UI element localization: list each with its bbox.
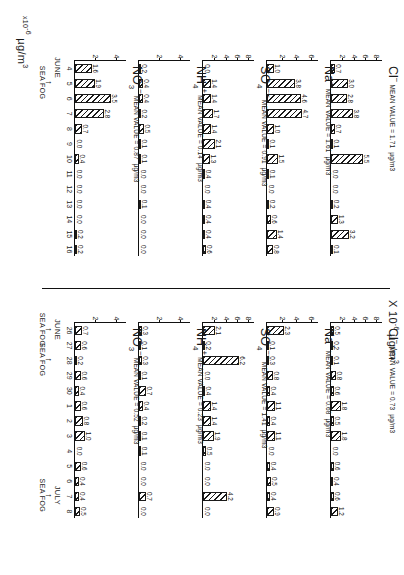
bar: 0.7	[75, 124, 82, 133]
bar-value-label: 0.8	[273, 245, 280, 254]
panel-title-nh4-period1: NH4+MEAN VALUE = 0.14 µg/m3	[191, 66, 209, 182]
bar-value-label: 0.2	[77, 245, 84, 254]
bar-value-label: 0.4	[333, 477, 340, 486]
month-label-july: JULY	[53, 486, 62, 505]
aerosol-ion-bar-chart-figure: Cl−MEAN VALUE = 1.71 µg/m324680.73.02.83…	[0, 0, 404, 575]
bar: 0.4	[75, 386, 79, 395]
bar: 0.6	[75, 401, 81, 410]
sea-fog-label: SEA FOG	[39, 66, 46, 100]
bar-value-label: 0.1	[333, 245, 340, 254]
bar-value-label: 0.4	[79, 386, 86, 395]
bar-value-label: 3.8	[295, 79, 302, 88]
bar: 0.5	[203, 446, 206, 455]
y-tick-mark	[214, 320, 215, 323]
plot-area-no3-period2: 240.7260.6270.2280.6290.4300.610.821.030…	[75, 323, 126, 518]
bar-value-label: 0.1	[141, 200, 148, 209]
bar-value-label: 4.7	[302, 109, 309, 118]
bar: 0.4	[75, 477, 79, 486]
bar-value-label: 1.4	[211, 417, 218, 426]
bar-value-label: 0.4	[79, 155, 86, 164]
x-tick-day-label: 8	[66, 127, 75, 131]
bar-value-label: 0.0	[76, 185, 83, 194]
sea-fog-label: SEA FOG	[39, 479, 46, 513]
bar: 1.4	[267, 230, 277, 239]
bar: 0.8	[75, 416, 83, 425]
bar-value-label: 0.0	[204, 185, 211, 194]
bar-value-label: 1.3	[211, 155, 218, 164]
sea-fog-arrow: ↑	[46, 493, 52, 498]
y-tick-mark	[159, 320, 160, 323]
bar-value-label: 2.3	[284, 326, 291, 335]
bar-value-label: 1.7	[213, 109, 220, 118]
bar-value-label: 0.6	[81, 402, 88, 411]
x-tick-day-label: 8	[66, 510, 75, 514]
bar-value-label: 5.5	[363, 155, 370, 164]
bar-value-label: 0.0	[140, 462, 147, 471]
bar: 0.6	[75, 341, 81, 350]
bar-value-label: 0.4	[79, 492, 86, 501]
bar-value-label: 0.5	[144, 124, 151, 133]
bar-value-label: 6.2	[239, 356, 246, 365]
y-tick-mark	[248, 58, 249, 61]
bar-value-label: 0.4	[205, 200, 212, 209]
bar: 0.7	[75, 326, 82, 335]
plot-area-cl-period1: 24680.73.02.83.80.70.15.50.00.00.21.33.2…	[331, 61, 382, 256]
panel-title-so4-period1: SO4−−MEAN VALUE = 0.91 µg/m3	[255, 66, 273, 187]
x-tick-day-label: 15	[66, 230, 75, 238]
bar-value-label: 0.2	[77, 356, 84, 365]
bar-value-label: 3.8	[353, 109, 360, 118]
bar: 0.6	[75, 462, 81, 471]
bar-value-label: 2.1	[215, 326, 222, 335]
plot-area-so4-period2: 24682.10.26.20.00.41.41.41.90.50.00.04.2…	[203, 323, 254, 518]
bar-value-label: 0.4	[79, 477, 86, 486]
bar-value-label: 1.4	[211, 94, 218, 103]
x-tick-day-label: 14	[66, 215, 75, 223]
bar-value-label: 0.0	[76, 215, 83, 224]
bar-value-label: 1.8	[341, 402, 348, 411]
y-tick-mark	[180, 320, 181, 323]
y-tick-mark	[342, 58, 343, 61]
bar: 0.6	[203, 245, 206, 254]
y-tick-mark	[95, 58, 96, 61]
x-tick-day-label: 5	[66, 464, 75, 468]
y-tick-mark	[342, 320, 343, 323]
bar-value-label: 0.0	[140, 185, 147, 194]
bar: 1.6	[75, 64, 92, 73]
bar-value-label: 1.0	[85, 432, 92, 441]
bar-value-label: 0.5	[271, 477, 278, 486]
bar-value-label: 0.0	[140, 245, 147, 254]
x-tick-day-label: 16	[66, 246, 75, 254]
bar-value-label: 1.2	[338, 507, 345, 516]
bar-value-label: 1.6	[92, 64, 99, 73]
bar: 4.2	[203, 492, 227, 501]
y-tick-mark	[376, 58, 377, 61]
bar-value-label: 2.1	[215, 140, 222, 149]
x-tick-day-label: 29	[66, 372, 75, 380]
bar: 0.6	[331, 462, 334, 471]
plot-area-no3-period1: 241.641.953.562.870.780.090.4100.0110.01…	[75, 61, 126, 256]
bar-value-label: 0.7	[82, 326, 89, 335]
bar-value-label: 0.0	[140, 507, 147, 516]
bar-value-label: 0.6	[334, 462, 341, 471]
bar-value-label: 4.6	[301, 94, 308, 103]
bar-value-label: 0.4	[205, 230, 212, 239]
bar-value-label: 0.6	[81, 341, 88, 350]
bar-value-label: 0.2	[333, 200, 340, 209]
x-tick-day-label: 12	[66, 185, 75, 193]
bar-value-label: 1.9	[95, 79, 102, 88]
y-tick-mark	[159, 58, 160, 61]
x-tick-day-label: 5	[66, 82, 75, 86]
bar-value-label: 1.9	[214, 432, 221, 441]
y-tick-mark	[237, 320, 238, 323]
plot-area-nh4-period1: 240.20.40.40.20.50.10.10.00.00.10.00.00.…	[139, 61, 190, 256]
panel-nh4-period2: 240.30.10.30.10.70.40.20.10.10.00.00.70.…	[138, 322, 190, 518]
period-divider	[42, 288, 390, 289]
bar-value-label: 0.0	[204, 477, 211, 486]
bar: 0.2	[75, 230, 77, 239]
bar-value-label: 1.5	[278, 155, 285, 164]
x-tick-day-label: 11	[66, 170, 75, 177]
x-tick-day-label: 2	[66, 419, 75, 423]
bar: 0.4	[267, 492, 270, 501]
global-axis-label-upper: X 10-6 µg/m3	[387, 300, 400, 364]
x-tick-day-label: 10	[66, 155, 75, 163]
